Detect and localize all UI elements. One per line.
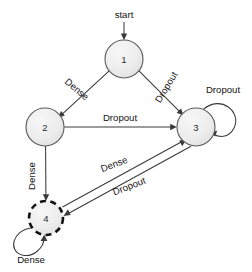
edge-label-1-to-3: Dropout [152,69,179,104]
node-1[interactable]: 1 [105,40,143,78]
node-3[interactable]: 3 [177,108,215,146]
edge-2-to-3-arrowhead [170,124,177,130]
start-arrowhead [121,33,127,40]
node-4[interactable]: 4 [29,201,63,235]
start-arrow-group: start [115,9,134,41]
edge-label-3-to-4: Dropout [111,175,147,198]
node-2-label: 2 [42,122,47,133]
edge-4-to-3-line [63,141,184,207]
start-label: start [115,9,134,20]
edge-4-to-3: Dense [63,139,187,207]
edge-label-self-loop-node-4: Dense [17,254,45,265]
edge-label-1-to-2: Dense [63,76,91,102]
edge-3-to-4: Dropout [64,146,192,216]
node-3-label: 3 [193,122,198,133]
edge-label-4-to-3: Dense [99,154,129,174]
node-2[interactable]: 2 [26,108,64,146]
edge-label-2-to-3: Dropout [103,112,137,123]
edge-label-2-to-4: Dense [26,162,37,190]
edge-label-self-loop-node-3: Dropout [206,84,240,95]
edge-2-to-3: Dropout [64,112,177,131]
edge-2-to-4: Dense [26,146,50,201]
node-4-label: 4 [43,213,48,224]
diagram-canvas: start Dense Dropout Dropout Dense [0,0,252,272]
edge-1-to-2: Dense [58,71,109,118]
edge-1-to-3: Dropout [139,69,184,115]
node-1-label: 1 [121,54,126,65]
state-diagram: start Dense Dropout Dropout Dense [0,0,252,272]
